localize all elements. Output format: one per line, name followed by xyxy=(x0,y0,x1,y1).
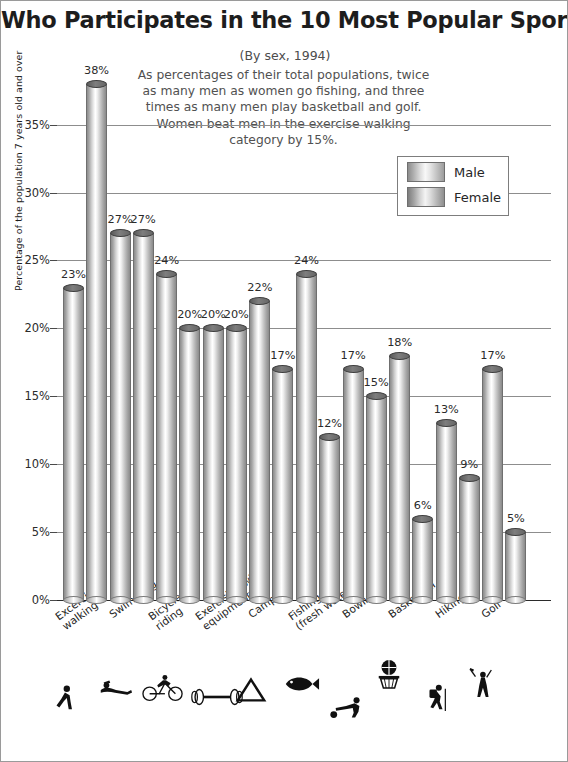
bar-male-8 xyxy=(436,423,457,600)
bar-value-label: 24% xyxy=(294,254,319,267)
bar-value-label: 13% xyxy=(434,403,459,416)
bar-cap xyxy=(272,365,293,373)
swimming-icon xyxy=(96,679,134,705)
bar-value-label: 20% xyxy=(201,308,226,321)
y-tick-label: 10% xyxy=(24,457,50,471)
bar-value-label: 15% xyxy=(364,376,389,389)
bar-cap xyxy=(63,284,84,292)
bar-male-3 xyxy=(203,328,224,600)
bar-cap xyxy=(249,297,270,305)
bar-foot xyxy=(366,596,387,604)
bar-foot xyxy=(436,596,457,604)
bar-cap xyxy=(436,419,457,427)
bar-value-label: 17% xyxy=(480,349,505,362)
bar-foot xyxy=(505,596,526,604)
bar-value-label: 27% xyxy=(131,213,156,226)
legend-label-female: Female xyxy=(454,190,501,205)
bar-male-5 xyxy=(296,274,317,600)
bar-male-9 xyxy=(482,369,503,600)
bar-cap xyxy=(296,270,317,278)
bar-cap xyxy=(366,392,387,400)
y-tick-label: 30% xyxy=(24,186,50,200)
y-axis-title: Percentage of the population 7 years old… xyxy=(13,51,24,291)
bar-cap xyxy=(343,365,364,373)
bar-female-2 xyxy=(179,328,200,600)
walking-icon xyxy=(49,684,79,718)
y-tick-mark xyxy=(50,260,57,261)
bar-value-label: 5% xyxy=(507,512,525,525)
bar-value-label: 9% xyxy=(460,458,478,471)
bar-foot xyxy=(412,596,433,604)
bar-value-label: 22% xyxy=(247,281,272,294)
bar-female-1 xyxy=(133,233,154,600)
bar-foot xyxy=(226,596,247,604)
fish-icon xyxy=(282,673,320,699)
legend-swatch-female xyxy=(407,187,445,207)
legend-item-male: Male xyxy=(407,162,485,182)
bar-cap xyxy=(412,515,433,523)
bar-cap xyxy=(389,352,410,360)
bar-female-3 xyxy=(226,328,247,600)
bar-value-label: 23% xyxy=(61,268,86,281)
bar-value-label: 6% xyxy=(414,499,432,512)
bar-foot xyxy=(459,596,480,604)
bar-female-9 xyxy=(505,532,526,600)
bar-female-8 xyxy=(459,478,480,600)
bar-foot xyxy=(179,596,200,604)
bar-value-label: 20% xyxy=(224,308,249,321)
bar-cap xyxy=(179,324,200,332)
bar-male-4 xyxy=(249,301,270,600)
bar-male-0 xyxy=(63,288,84,600)
bar-cap xyxy=(226,324,247,332)
bar-foot xyxy=(272,596,293,604)
bar-male-1 xyxy=(110,233,131,600)
y-tick-mark xyxy=(50,396,57,397)
bar-cap xyxy=(86,80,107,88)
bar-foot xyxy=(203,596,224,604)
y-tick-mark xyxy=(50,328,57,329)
bar-cap xyxy=(319,433,340,441)
bar-value-label: 17% xyxy=(270,349,295,362)
y-tick-label: 20% xyxy=(24,321,50,335)
bar-value-label: 12% xyxy=(317,417,342,430)
legend: Male Female xyxy=(397,156,509,216)
bar-value-label: 17% xyxy=(341,349,366,362)
bar-cap xyxy=(110,229,131,237)
y-tick-mark xyxy=(50,600,57,601)
y-tick-label: 35% xyxy=(24,118,50,132)
golf-icon xyxy=(468,668,496,704)
bar-value-label: 20% xyxy=(177,308,202,321)
basketball-icon xyxy=(375,659,403,695)
bicycle-icon xyxy=(142,673,184,707)
bar-foot xyxy=(296,596,317,604)
y-tick-label: 15% xyxy=(24,389,50,403)
hiking-icon xyxy=(422,683,450,717)
bar-cap xyxy=(203,324,224,332)
bar-female-6 xyxy=(366,396,387,600)
bar-foot xyxy=(133,596,154,604)
bar-female-5 xyxy=(319,437,340,600)
legend-swatch-male xyxy=(407,162,445,182)
legend-label-male: Male xyxy=(454,165,485,180)
bar-cap xyxy=(505,528,526,536)
y-tick-label: 25% xyxy=(24,253,50,267)
bar-value-label: 27% xyxy=(108,213,133,226)
bar-foot xyxy=(343,596,364,604)
y-tick-mark xyxy=(50,464,57,465)
y-tick-mark xyxy=(50,532,57,533)
bar-value-label: 24% xyxy=(154,254,179,267)
bar-foot xyxy=(110,596,131,604)
tent-icon xyxy=(235,677,267,707)
bar-male-7 xyxy=(389,356,410,601)
y-tick-mark xyxy=(50,193,57,194)
bar-value-label: 18% xyxy=(387,336,412,349)
page-title: Who Participates in the 10 Most Popular … xyxy=(1,7,568,33)
gridline xyxy=(57,125,551,126)
bowling-icon xyxy=(329,695,367,723)
bar-value-label: 38% xyxy=(84,64,109,77)
bar-male-6 xyxy=(343,369,364,600)
y-tick-label: 0% xyxy=(32,593,50,607)
y-tick-mark xyxy=(50,125,57,126)
bar-cap xyxy=(133,229,154,237)
chart-page: Who Participates in the 10 Most Popular … xyxy=(0,0,568,762)
